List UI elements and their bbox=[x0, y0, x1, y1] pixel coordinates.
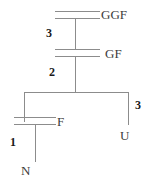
marriage-line-ggf-lower bbox=[55, 18, 100, 19]
person-label-u: U bbox=[120, 129, 129, 142]
person-label-gf: GF bbox=[105, 47, 122, 60]
person-label-n: N bbox=[21, 164, 30, 177]
edge-number-f-n: 1 bbox=[10, 136, 16, 148]
sibling-bar bbox=[24, 92, 129, 93]
marriage-line-f-upper bbox=[14, 117, 56, 118]
descent-line-gf-siblings bbox=[75, 56, 76, 92]
edge-number-sibling-u: 3 bbox=[135, 99, 141, 111]
marriage-line-ggf-upper bbox=[55, 11, 100, 12]
sibling-drop-line-u bbox=[128, 92, 129, 125]
pedigree-diagram: GGF 3 GF 2 3 U F 1 N bbox=[0, 0, 153, 185]
person-label-ggf: GGF bbox=[101, 8, 127, 21]
edge-number-ggf-gf: 3 bbox=[46, 27, 52, 39]
descent-line-ggf-gf bbox=[75, 18, 76, 49]
marriage-line-gf-upper bbox=[55, 49, 100, 50]
edge-number-gf-f: 2 bbox=[49, 66, 55, 78]
person-label-f: F bbox=[57, 115, 64, 128]
descent-line-f-n bbox=[35, 124, 36, 162]
marriage-line-gf-lower bbox=[55, 56, 100, 57]
